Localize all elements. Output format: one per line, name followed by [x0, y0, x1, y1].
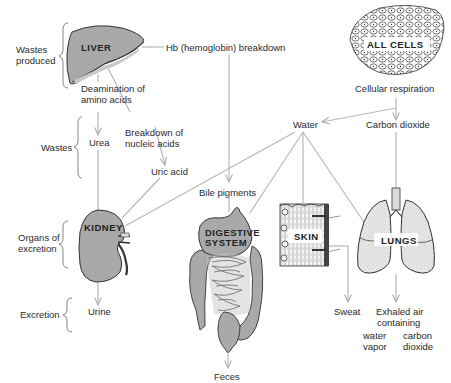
- label-organs-line1: Organs of: [18, 232, 60, 243]
- organ-label-lungs: LUNGS: [381, 235, 417, 246]
- label-feces: Feces: [214, 371, 240, 382]
- label-nucleic-acid-breakdown: Breakdown of nucleic acids: [125, 127, 183, 149]
- label-nucleic-line2: nucleic acids: [125, 138, 183, 149]
- organ-label-kidney: KIDNEY: [84, 222, 123, 233]
- organ-label-skin: SKIN: [294, 231, 319, 242]
- label-uric-acid: Uric acid: [151, 166, 188, 177]
- kidney-drawing: [79, 210, 130, 282]
- label-deamination-line2: amino acids: [81, 94, 145, 105]
- label-sweat: Sweat: [334, 306, 360, 317]
- label-urea: Urea: [89, 137, 110, 148]
- label-deamination-line1: Deamination of: [81, 83, 145, 94]
- organ-label-digestive-system: DIGESTIVE SYSTEM: [205, 228, 260, 248]
- label-co2-line1: carbon: [403, 330, 433, 341]
- liver-drawing: [67, 26, 144, 84]
- label-wastes-produced: Wastes produced: [16, 44, 56, 66]
- label-wastes-produced-line2: produced: [16, 55, 56, 66]
- label-water-vapor-line1: water: [363, 330, 387, 341]
- label-hb-breakdown: Hb (hemoglobin) breakdown: [166, 42, 285, 53]
- label-exhaled-line1: Exhaled air: [376, 306, 424, 317]
- label-exhaled-line2: containing: [376, 317, 424, 328]
- label-wastes-produced-line1: Wastes: [16, 44, 56, 55]
- lungs-drawing: [358, 188, 435, 273]
- excretion-diagram: Wastes produced Wastes Organs of excreti…: [0, 0, 451, 383]
- label-urine: Urine: [88, 306, 111, 317]
- label-wastes: Wastes: [41, 142, 72, 153]
- label-cellular-respiration: Cellular respiration: [355, 83, 434, 94]
- label-carbon-dioxide: Carbon dioxide: [366, 119, 430, 130]
- label-co2-exhaled: carbon dioxide: [403, 330, 433, 352]
- organ-label-digestive-line2: SYSTEM: [205, 238, 260, 248]
- label-bile-pigments: Bile pigments: [199, 187, 256, 198]
- label-organs-of-excretion: Organs of excretion: [18, 232, 60, 254]
- organ-label-all-cells: ALL CELLS: [367, 39, 424, 50]
- organ-label-liver: LIVER: [81, 42, 111, 53]
- label-organs-line2: excretion: [18, 243, 60, 254]
- label-deamination: Deamination of amino acids: [81, 83, 145, 105]
- label-excretion: Excretion: [20, 309, 60, 320]
- label-nucleic-line1: Breakdown of: [125, 127, 183, 138]
- label-water-vapor-line2: vapor: [363, 341, 387, 352]
- label-co2-line2: dioxide: [403, 341, 433, 352]
- label-water: Water: [293, 119, 318, 130]
- label-exhaled-air: Exhaled air containing: [376, 306, 424, 328]
- label-water-vapor: water vapor: [363, 330, 387, 352]
